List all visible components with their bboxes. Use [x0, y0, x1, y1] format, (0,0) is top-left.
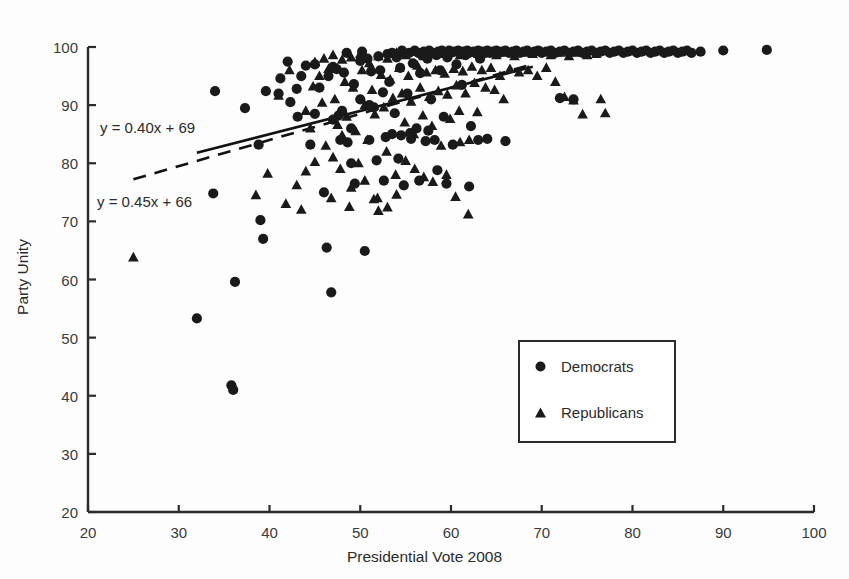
- data-point: [255, 215, 265, 225]
- data-point: [322, 242, 332, 252]
- data-point: [384, 77, 394, 87]
- data-point: [128, 252, 139, 262]
- data-point: [420, 136, 430, 146]
- x-tick-label: 40: [261, 524, 278, 541]
- data-point: [555, 93, 565, 103]
- data-point: [283, 56, 293, 66]
- data-point: [435, 65, 445, 75]
- data-point: [320, 140, 331, 150]
- data-point: [292, 84, 302, 94]
- data-point: [498, 94, 509, 104]
- data-point: [439, 112, 449, 122]
- y-tick-label: 70: [40, 213, 78, 230]
- data-point: [208, 188, 218, 198]
- data-point: [192, 313, 202, 323]
- data-point: [457, 80, 467, 90]
- data-point: [390, 169, 401, 179]
- data-point: [291, 180, 302, 190]
- data-point: [718, 45, 728, 55]
- data-point: [310, 156, 321, 166]
- data-point: [464, 181, 474, 191]
- data-point: [350, 178, 360, 188]
- data-point: [393, 154, 403, 164]
- data-point: [319, 187, 329, 197]
- data-point: [300, 166, 311, 176]
- x-tick-label: 30: [170, 524, 187, 541]
- data-point: [387, 129, 397, 139]
- data-point: [337, 106, 347, 116]
- data-point: [448, 140, 458, 150]
- data-points-republicans: [128, 46, 611, 261]
- data-point: [371, 155, 381, 165]
- data-point: [441, 169, 452, 179]
- data-point: [541, 62, 552, 72]
- data-point: [230, 277, 240, 287]
- data-point: [686, 48, 696, 58]
- data-point: [441, 178, 451, 188]
- data-point: [262, 168, 273, 178]
- data-point: [300, 105, 311, 115]
- x-tick-label: 70: [533, 524, 550, 541]
- circle-marker-icon: [534, 360, 547, 373]
- triangle-marker-icon: [534, 406, 547, 419]
- data-point: [228, 385, 238, 395]
- data-point: [399, 180, 409, 190]
- scatter-plot-figure: 2030405060708090100 2030405060708090100 …: [0, 0, 849, 579]
- data-point: [326, 287, 336, 297]
- y-tick-label: 30: [40, 445, 78, 462]
- data-point: [473, 135, 483, 145]
- data-point: [310, 59, 320, 69]
- data-point: [296, 71, 306, 81]
- data-point: [480, 82, 491, 92]
- data-point: [451, 59, 461, 69]
- data-point: [373, 205, 384, 215]
- legend-label-republicans: Republicans: [561, 404, 644, 421]
- data-point: [364, 100, 374, 110]
- y-tick-label: 40: [40, 387, 78, 404]
- data-point: [390, 108, 400, 118]
- data-points-democrats: [192, 45, 772, 395]
- legend: Democrats Republicans: [518, 340, 676, 443]
- data-point: [346, 123, 356, 133]
- data-point: [568, 94, 578, 104]
- data-point: [314, 70, 325, 80]
- data-point: [423, 126, 433, 136]
- data-point: [405, 128, 415, 138]
- data-point: [396, 130, 406, 140]
- data-point: [454, 105, 465, 115]
- data-point: [319, 53, 330, 63]
- data-point: [254, 140, 264, 150]
- trendline-equation-democrats: y = 0.40x + 69: [100, 119, 195, 136]
- data-point: [375, 65, 385, 75]
- data-point: [432, 165, 442, 175]
- data-point: [339, 67, 349, 77]
- data-point: [342, 137, 352, 147]
- data-point: [258, 234, 268, 244]
- data-point: [482, 134, 492, 144]
- data-point: [489, 84, 500, 94]
- data-point: [349, 79, 359, 89]
- legend-label-democrats: Democrats: [561, 358, 634, 375]
- data-point: [359, 175, 370, 185]
- data-point: [346, 158, 356, 168]
- data-point: [391, 189, 402, 199]
- data-point: [402, 88, 412, 98]
- data-point: [328, 50, 339, 60]
- x-tick-label: 50: [352, 524, 369, 541]
- data-point: [577, 109, 588, 119]
- data-point: [500, 136, 510, 146]
- data-point: [281, 198, 292, 208]
- data-point: [408, 58, 418, 68]
- data-point: [328, 152, 339, 162]
- data-point: [467, 61, 478, 71]
- x-tick-label: 100: [801, 524, 826, 541]
- data-point: [409, 163, 420, 173]
- data-point: [466, 121, 476, 131]
- x-tick-label: 80: [624, 524, 641, 541]
- data-point: [472, 107, 483, 117]
- data-point: [301, 61, 311, 71]
- data-point: [428, 176, 439, 186]
- data-point: [414, 176, 424, 186]
- x-tick-label: 60: [443, 524, 460, 541]
- data-point: [399, 117, 410, 127]
